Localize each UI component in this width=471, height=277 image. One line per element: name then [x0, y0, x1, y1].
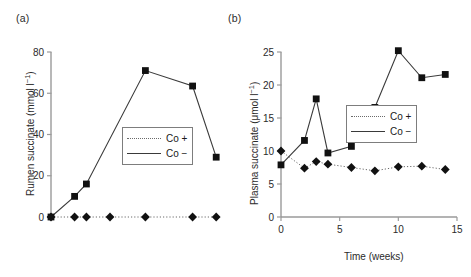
- panel-b: (b) Plasma succinate (μmol l−1) 05101520…: [236, 0, 471, 277]
- panel-a-plot: 020406080: [0, 0, 236, 277]
- svg-text:60: 60: [33, 88, 45, 99]
- legend-sample-co-minus: [351, 126, 385, 137]
- svg-text:10: 10: [263, 146, 275, 157]
- legend-sample-co-minus: [127, 148, 161, 159]
- svg-text:10: 10: [393, 224, 405, 235]
- legend-sample-co-plus: [351, 111, 385, 122]
- legend-entry-co-minus: Co −: [351, 124, 411, 139]
- panel-b-x-axis-title: Time (weeks): [344, 252, 404, 262]
- panel-a-legend: Co + Co −: [122, 127, 193, 165]
- svg-text:25: 25: [263, 47, 275, 58]
- svg-text:20: 20: [33, 170, 45, 181]
- legend-entry-co-plus: Co +: [127, 131, 187, 146]
- figure-container: (a) Rumen succinate (mmol l−1) 020406080…: [0, 0, 471, 277]
- legend-entry-co-minus: Co −: [127, 146, 187, 161]
- legend-label-co-minus: Co −: [166, 148, 187, 159]
- legend-entry-co-plus: Co +: [351, 109, 411, 124]
- svg-text:0: 0: [278, 224, 284, 235]
- svg-text:40: 40: [33, 129, 45, 140]
- svg-text:0: 0: [268, 212, 274, 223]
- svg-text:5: 5: [268, 179, 274, 190]
- svg-text:0: 0: [38, 212, 44, 223]
- legend-label-co-plus: Co +: [166, 133, 187, 144]
- svg-text:20: 20: [263, 80, 275, 91]
- legend-label-co-plus: Co +: [390, 111, 411, 122]
- legend-sample-co-plus: [127, 133, 161, 144]
- svg-text:80: 80: [33, 47, 45, 58]
- legend-label-co-minus: Co −: [390, 126, 411, 137]
- svg-text:15: 15: [263, 113, 275, 124]
- panel-b-legend: Co + Co −: [346, 105, 417, 143]
- panel-a: (a) Rumen succinate (mmol l−1) 020406080…: [0, 0, 236, 277]
- svg-text:5: 5: [337, 224, 343, 235]
- svg-text:15: 15: [451, 224, 463, 235]
